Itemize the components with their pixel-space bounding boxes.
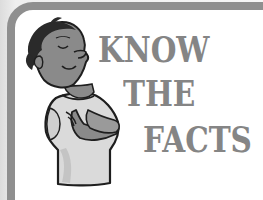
boy-illustration-icon: [0, 0, 263, 200]
